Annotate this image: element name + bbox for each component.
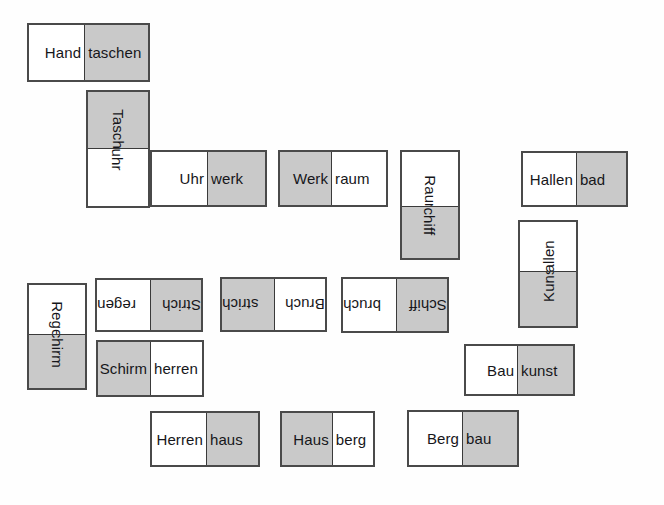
domino-taschenuhr-half-first[interactable]: Taschen (88, 92, 148, 149)
domino-bruchstrich-label-second: Bruch (282, 297, 325, 312)
domino-herrenhaus-label-first: Herren (156, 432, 205, 447)
domino-werkraum-label-first: Werk (293, 171, 331, 186)
domino-kunsthallen-half-second[interactable]: Kunst (520, 272, 576, 326)
domino-schirmherren-label-second: herren (151, 361, 198, 376)
domino-bruchstrich-label-first: strich (222, 297, 261, 312)
domino-taschenuhr-label-first: Taschen (110, 109, 125, 149)
domino-hallenbad-label-second: bad (577, 172, 605, 187)
domino-schiffbruch[interactable]: bruchSchiff (341, 277, 449, 333)
domino-bruchstrich-half-second[interactable]: Bruch (275, 279, 325, 330)
domino-regenschirm-half-second[interactable]: schirm (29, 335, 85, 388)
domino-bergbau[interactable]: Bergbau (407, 410, 519, 467)
domino-strichregen-half-first[interactable]: regen (97, 280, 151, 330)
domino-regenschirm-label-first: Regen (49, 301, 64, 335)
domino-schiffbruch-half-first[interactable]: bruch (343, 279, 397, 331)
domino-werkraum-label-second: raum (332, 171, 370, 186)
domino-baukunst-label-first: Bau (487, 363, 517, 378)
domino-handtaschen-label-first: Hand (45, 45, 84, 60)
domino-strichregen-label-second: Strich (159, 298, 201, 313)
domino-regenschirm[interactable]: Regenschirm (27, 283, 87, 390)
domino-raumschiff[interactable]: Raumschiff (400, 150, 460, 260)
domino-regenschirm-half-first[interactable]: Regen (29, 285, 85, 335)
domino-kunsthallen-half-first[interactable]: hallen (520, 222, 576, 272)
domino-raumschiff-label-first: Raum (422, 175, 437, 207)
domino-uhrwerk-label-second: werk (208, 171, 243, 186)
domino-hallenbad-label-first: Hallen (530, 172, 576, 187)
domino-regenschirm-label-second: schirm (49, 335, 64, 368)
domino-hausberg-label-first: Haus (293, 432, 331, 447)
domino-taschenuhr-label-second: uhr (110, 149, 125, 170)
domino-handtaschen-half-second[interactable]: taschen (85, 25, 148, 80)
domino-chain-canvas: HandtaschenTaschenuhrUhrwerkWerkraumRaum… (0, 0, 664, 505)
domino-schirmherren-half-second[interactable]: herren (151, 342, 202, 395)
domino-handtaschen-half-first[interactable]: Hand (29, 25, 85, 80)
domino-bergbau-label-first: Berg (427, 431, 462, 446)
domino-herrenhaus-label-second: haus (207, 432, 243, 447)
domino-hausberg-half-first[interactable]: Haus (282, 413, 333, 465)
domino-uhrwerk-half-first[interactable]: Uhr (152, 152, 208, 205)
domino-schirmherren[interactable]: Schirmherren (96, 340, 204, 397)
domino-raumschiff-label-second: schiff (423, 207, 438, 235)
domino-raumschiff-half-first[interactable]: Raum (402, 152, 458, 207)
domino-baukunst-half-first[interactable]: Bau (466, 346, 518, 394)
domino-werkraum[interactable]: Werkraum (278, 150, 388, 207)
domino-hausberg-half-second[interactable]: berg (333, 413, 373, 465)
domino-kunsthallen-label-first: hallen (540, 240, 555, 272)
domino-bruchstrich[interactable]: strichBruch (220, 277, 327, 332)
domino-hallenbad-half-first[interactable]: Hallen (523, 153, 577, 205)
domino-schirmherren-half-first[interactable]: Schirm (98, 342, 151, 395)
domino-strichregen-half-second[interactable]: Strich (151, 280, 201, 330)
domino-strichregen[interactable]: regenStrich (95, 278, 203, 332)
domino-uhrwerk-half-second[interactable]: werk (208, 152, 265, 205)
domino-herrenhaus[interactable]: Herrenhaus (150, 411, 260, 467)
domino-taschenuhr[interactable]: Taschenuhr (86, 90, 150, 208)
domino-bruchstrich-half-first[interactable]: strich (222, 279, 275, 330)
domino-hallenbad-half-second[interactable]: bad (577, 153, 626, 205)
domino-bergbau-half-second[interactable]: bau (463, 412, 517, 465)
domino-herrenhaus-half-first[interactable]: Herren (152, 413, 207, 465)
domino-schiffbruch-half-second[interactable]: Schiff (397, 279, 447, 331)
domino-raumschiff-half-second[interactable]: schiff (402, 207, 458, 258)
domino-kunsthallen[interactable]: hallenKunst (518, 220, 578, 328)
domino-hausberg-label-second: berg (333, 432, 366, 447)
domino-werkraum-half-second[interactable]: raum (332, 152, 386, 205)
domino-schiffbruch-label-first: bruch (343, 298, 384, 313)
domino-bergbau-half-first[interactable]: Berg (409, 412, 463, 465)
domino-herrenhaus-half-second[interactable]: haus (207, 413, 258, 465)
domino-uhrwerk[interactable]: Uhrwerk (150, 150, 267, 207)
domino-baukunst-label-second: kunst (518, 363, 557, 378)
domino-schirmherren-label-first: Schirm (100, 361, 150, 376)
domino-bergbau-label-second: bau (463, 431, 491, 446)
domino-baukunst[interactable]: Baukunst (464, 344, 575, 396)
domino-werkraum-half-first[interactable]: Werk (280, 152, 332, 205)
domino-hausberg[interactable]: Hausberg (280, 411, 375, 467)
domino-taschenuhr-half-second[interactable]: uhr (88, 149, 148, 206)
domino-handtaschen[interactable]: Handtaschen (27, 23, 150, 82)
domino-handtaschen-label-second: taschen (85, 45, 141, 60)
domino-kunsthallen-label-second: Kunst (540, 272, 555, 302)
domino-strichregen-label-first: regen (97, 298, 139, 313)
domino-schiffbruch-label-second: Schiff (406, 298, 447, 313)
domino-hallenbad[interactable]: Hallenbad (521, 151, 628, 207)
domino-uhrwerk-label-first: Uhr (180, 171, 207, 186)
domino-baukunst-half-second[interactable]: kunst (518, 346, 573, 394)
